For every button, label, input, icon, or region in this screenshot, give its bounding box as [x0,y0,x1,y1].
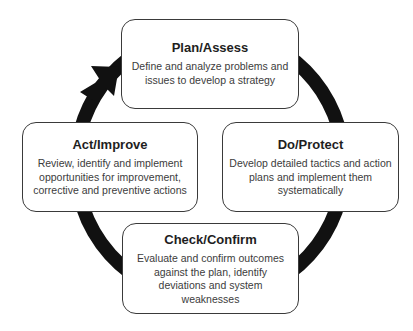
step-check-confirm: Check/Confirm Evaluate and confirm outco… [122,223,299,314]
step-description: Review, identify and implement opportuni… [23,157,197,198]
step-plan-assess: Plan/Assess Define and analyze problems … [121,19,299,109]
step-do-protect: Do/Protect Develop detailed tactics and … [222,122,399,212]
step-title: Do/Protect [278,137,344,152]
step-title: Plan/Assess [172,40,249,55]
step-description: Develop detailed tactics and action plan… [223,157,398,198]
step-description: Define and analyze problems and issues t… [122,60,298,87]
step-title: Check/Confirm [164,232,256,247]
step-title: Act/Improve [72,137,147,152]
step-description: Evaluate and confirm outcomes against th… [123,252,298,306]
step-act-improve: Act/Improve Review, identify and impleme… [22,122,198,212]
